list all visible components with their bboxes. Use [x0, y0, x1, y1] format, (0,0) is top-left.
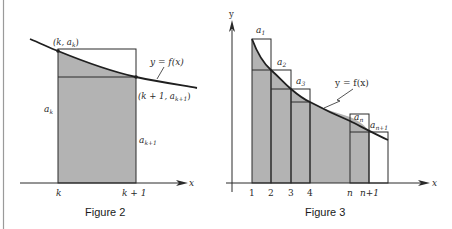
x-tick-n1: n+1 [360, 188, 379, 198]
curve-label: y = f(x) [334, 78, 369, 88]
figure-2: x (k, ak) (k + 1, ak+1) y = f(x) ak ak+1… [20, 37, 197, 218]
right-height-label: ak+1 [139, 135, 157, 146]
curve-label-pointer [324, 89, 353, 108]
shaded-area [58, 51, 136, 183]
y-axis-label: y [228, 9, 234, 19]
figure-3-caption: Figure 3 [305, 206, 345, 218]
x-tick-2: 2 [268, 188, 274, 198]
x-tick-k1: k + 1 [122, 188, 146, 198]
figure-2-caption: Figure 2 [85, 206, 125, 218]
point-k1 [134, 75, 138, 79]
figure-3: y x a1 a2 a3 an an+1 y = f(x) 1 2 3 4 n … [226, 9, 437, 218]
x-axis-label: x [189, 178, 194, 188]
x-tick-k: k [56, 188, 61, 198]
point-k [56, 49, 60, 53]
point-k-label: (k, ak) [53, 37, 79, 48]
x-tick-1: 1 [249, 188, 255, 198]
curve-label-pointer [157, 67, 164, 79]
bar-label-a2: a2 [277, 57, 286, 68]
bar-label-an1: an+1 [370, 120, 388, 131]
bar-label-a1: a1 [256, 25, 265, 36]
figures-canvas: x (k, ak) (k + 1, ak+1) y = f(x) ak ak+1… [0, 0, 452, 229]
x-tick-3: 3 [288, 188, 294, 198]
x-axis-label: x [432, 178, 437, 188]
point-k1-label: (k + 1, ak+1) [138, 91, 191, 102]
curve-label: y = f(x) [149, 57, 184, 67]
left-height-label: ak [44, 104, 53, 115]
x-tick-4: 4 [307, 188, 313, 198]
x-tick-n: n [347, 188, 353, 198]
bar-label-a3: a3 [296, 76, 305, 87]
